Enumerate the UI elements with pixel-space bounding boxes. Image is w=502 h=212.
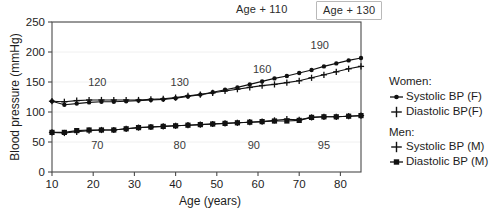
legend-marker-slot: [389, 156, 404, 168]
marker-diastolic-bp-m--15: [235, 120, 240, 125]
marker-diastolic-bp-m--4: [99, 127, 104, 132]
blood-pressure-chart-figure: 050100150200250 1020304050607080 1201301…: [0, 0, 502, 212]
marker-diastolic-bp-m--6: [124, 126, 129, 131]
annotation-130-x41: 130: [171, 76, 189, 88]
marker-systolic-bp-f--20: [297, 71, 301, 75]
marker-systolic-bp-f--25: [359, 56, 363, 60]
y-tick-label-50: 50: [32, 136, 45, 148]
marker-diastolic-bp-m--18: [272, 118, 277, 123]
x-tick-label-20: 20: [87, 178, 100, 190]
marker-diastolic-bp-m--25: [358, 113, 363, 118]
marker-diastolic-bp-m--13: [210, 121, 215, 126]
marker-diastolic-bp-m--19: [284, 118, 289, 123]
annotation-95-x76: 95: [318, 139, 330, 151]
legend-item-label: Systolic BP (M): [406, 141, 484, 153]
y-tick-label-250: 250: [26, 16, 45, 28]
x-axis-label: Age (years): [179, 194, 241, 208]
annotation-80-x41: 80: [174, 139, 186, 151]
x-tick-label-50: 50: [210, 178, 223, 190]
marker-diastolic-bp-m--8: [148, 124, 153, 129]
legend-item-diastolic-bp-f-[interactable]: Diastolic BP(F): [389, 106, 501, 118]
annotation-70-x21: 70: [91, 139, 103, 151]
annotation-190-x75: 190: [311, 39, 329, 51]
marker-diastolic-bp-m--22: [321, 114, 326, 119]
x-tick-label-60: 60: [252, 178, 265, 190]
legend-item-label: Diastolic BP(F): [406, 106, 483, 118]
marker-diastolic-bp-m--10: [173, 123, 178, 128]
marker-diastolic-bp-m--2: [74, 128, 79, 133]
legend-group-title-women: Women:: [389, 76, 501, 88]
marker-systolic-bp-f--24: [346, 58, 350, 62]
legend-marker-slot: [389, 141, 404, 153]
legend-item-label: Systolic BP (F): [406, 91, 482, 103]
plus-marker-icon: [389, 106, 404, 118]
marker-diastolic-bp-m--0: [49, 130, 54, 135]
marker-systolic-bp-f--18: [272, 76, 276, 80]
y-axis-label: Blood pressure (mmHg): [8, 33, 22, 160]
legend-item-systolic-bp-m-[interactable]: Systolic BP (M): [389, 141, 501, 153]
y-tick-label-200: 200: [26, 46, 45, 58]
marker-diastolic-bp-m--20: [297, 118, 302, 123]
y-tick-label-100: 100: [26, 106, 45, 118]
y-tick-label-150: 150: [26, 76, 45, 88]
marker-diastolic-bp-m--3: [86, 127, 91, 132]
marker-diastolic-bp-m--9: [161, 124, 166, 129]
marker-diastolic-bp-m--21: [309, 115, 314, 120]
legend-item-diastolic-bp-m-[interactable]: Diastolic BP (M): [389, 156, 501, 168]
callout-age-plus-110: Age + 110: [236, 3, 287, 15]
y-tick-label-0: 0: [39, 166, 45, 178]
chart-legend: Women:Systolic BP (F)Diastolic BP(F)Men:…: [389, 76, 501, 171]
marker-diastolic-bp-m--14: [222, 121, 227, 126]
square-marker-icon: [389, 156, 404, 168]
marker-diastolic-bp-m--16: [247, 120, 252, 125]
marker-diastolic-bp-m--23: [334, 114, 339, 119]
legend-marker-slot: [389, 91, 404, 103]
plus-marker-icon: [389, 141, 404, 153]
marker-systolic-bp-f--19: [285, 74, 289, 78]
marker-diastolic-bp-m--5: [111, 127, 116, 132]
callout-age-plus-130: Age + 130: [316, 1, 382, 20]
marker-diastolic-bp-m--1: [62, 130, 67, 135]
annotation-160-x61: 160: [253, 63, 271, 75]
marker-diastolic-bp-m--12: [198, 122, 203, 127]
annotation-90-x59: 90: [248, 139, 260, 151]
marker-systolic-bp-f--21: [309, 68, 313, 72]
legend-marker-slot: [389, 106, 404, 118]
marker-diastolic-bp-m--24: [346, 114, 351, 119]
x-tick-label-30: 30: [128, 178, 141, 190]
x-tick-label-40: 40: [169, 178, 182, 190]
marker-diastolic-bp-m--7: [136, 125, 141, 130]
marker-systolic-bp-f--22: [322, 64, 326, 68]
x-tick-label-10: 10: [46, 178, 59, 190]
x-tick-label-70: 70: [293, 178, 306, 190]
legend-item-systolic-bp-f-[interactable]: Systolic BP (F): [389, 91, 501, 103]
marker-diastolic-bp-m--17: [260, 119, 265, 124]
x-tick-label-80: 80: [334, 178, 347, 190]
legend-group-title-men: Men:: [389, 127, 501, 139]
marker-systolic-bp-f--23: [334, 61, 338, 65]
dot-line-marker-icon: [389, 91, 404, 103]
marker-diastolic-bp-m--11: [185, 123, 190, 128]
annotation-120-x21: 120: [88, 76, 106, 88]
legend-item-label: Diastolic BP (M): [406, 156, 488, 168]
